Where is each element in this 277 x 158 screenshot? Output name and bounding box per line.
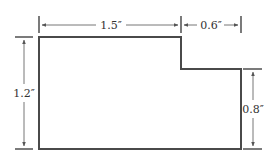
- label-left-height: 1.2″: [13, 87, 35, 100]
- dimension-top-left: 1.5″: [39, 16, 181, 33]
- dimension-right-height: 0.8″: [242, 69, 264, 149]
- label-top-left-width: 1.5″: [100, 19, 122, 32]
- dimension-left-height: 1.2″: [13, 37, 35, 149]
- label-right-height: 0.8″: [242, 103, 264, 116]
- dimensioned-shape-diagram: 1.5″ 0.6″ 1.2″ 0.8″: [0, 0, 277, 158]
- shape-outline: [39, 37, 241, 149]
- label-top-right-width: 0.6″: [200, 19, 222, 32]
- dimension-top-right: 0.6″: [184, 16, 241, 33]
